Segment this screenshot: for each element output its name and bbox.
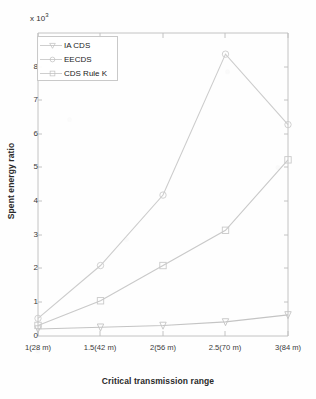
x-tick-label: 1(28 m) — [8, 343, 68, 352]
legend-item-cds-rule-k[interactable]: CDS Rule K — [38, 66, 119, 81]
y-tick-label: 0 — [18, 331, 38, 340]
y-axis-ticks — [38, 67, 288, 302]
legend-item-eecds[interactable]: EECDS — [38, 52, 119, 67]
x-tick-label: 2(56 m) — [133, 343, 193, 352]
y-tick-label: 5 — [18, 162, 38, 171]
x-tick-label: 1.5(42 m) — [70, 343, 130, 352]
x-tick-label: 3(84 m) — [258, 343, 316, 352]
y-tick-label: 4 — [18, 196, 38, 205]
x-axis-title: Critical transmission range — [0, 376, 316, 386]
y-tick-label: 2 — [18, 263, 38, 272]
series-ia-cds — [35, 312, 291, 333]
legend-label: IA CDS — [64, 42, 90, 50]
legend-label: EECDS — [64, 56, 92, 64]
y-tick-label: 8 — [18, 62, 38, 71]
y-tick-label: 7 — [18, 95, 38, 104]
series-line — [38, 160, 288, 326]
series-eecds — [35, 51, 291, 322]
series-line — [38, 54, 288, 318]
y-tick-label: 3 — [18, 230, 38, 239]
chart-legend: IA CDS EECDS CDS Rule K — [37, 36, 118, 81]
series-layer — [35, 51, 291, 333]
y-tick-label: 6 — [18, 129, 38, 138]
circle-marker-icon — [38, 53, 64, 67]
x-tick-label: 2.5(70 m) — [195, 343, 255, 352]
y-tick-label: 1 — [18, 297, 38, 306]
series-cds-rule-k — [35, 157, 291, 329]
legend-label: CDS Rule K — [64, 70, 107, 78]
y-axis-title: Spent energy ratio — [6, 131, 16, 231]
triangle-down-marker-icon — [38, 39, 64, 53]
square-marker-icon — [38, 67, 64, 81]
chart-figure: x 103 — [0, 0, 316, 399]
legend-item-ia-cds[interactable]: IA CDS — [38, 38, 119, 53]
